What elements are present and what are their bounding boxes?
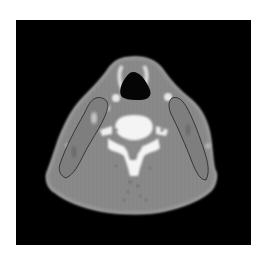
ct-scan-illustration: [0, 0, 267, 261]
